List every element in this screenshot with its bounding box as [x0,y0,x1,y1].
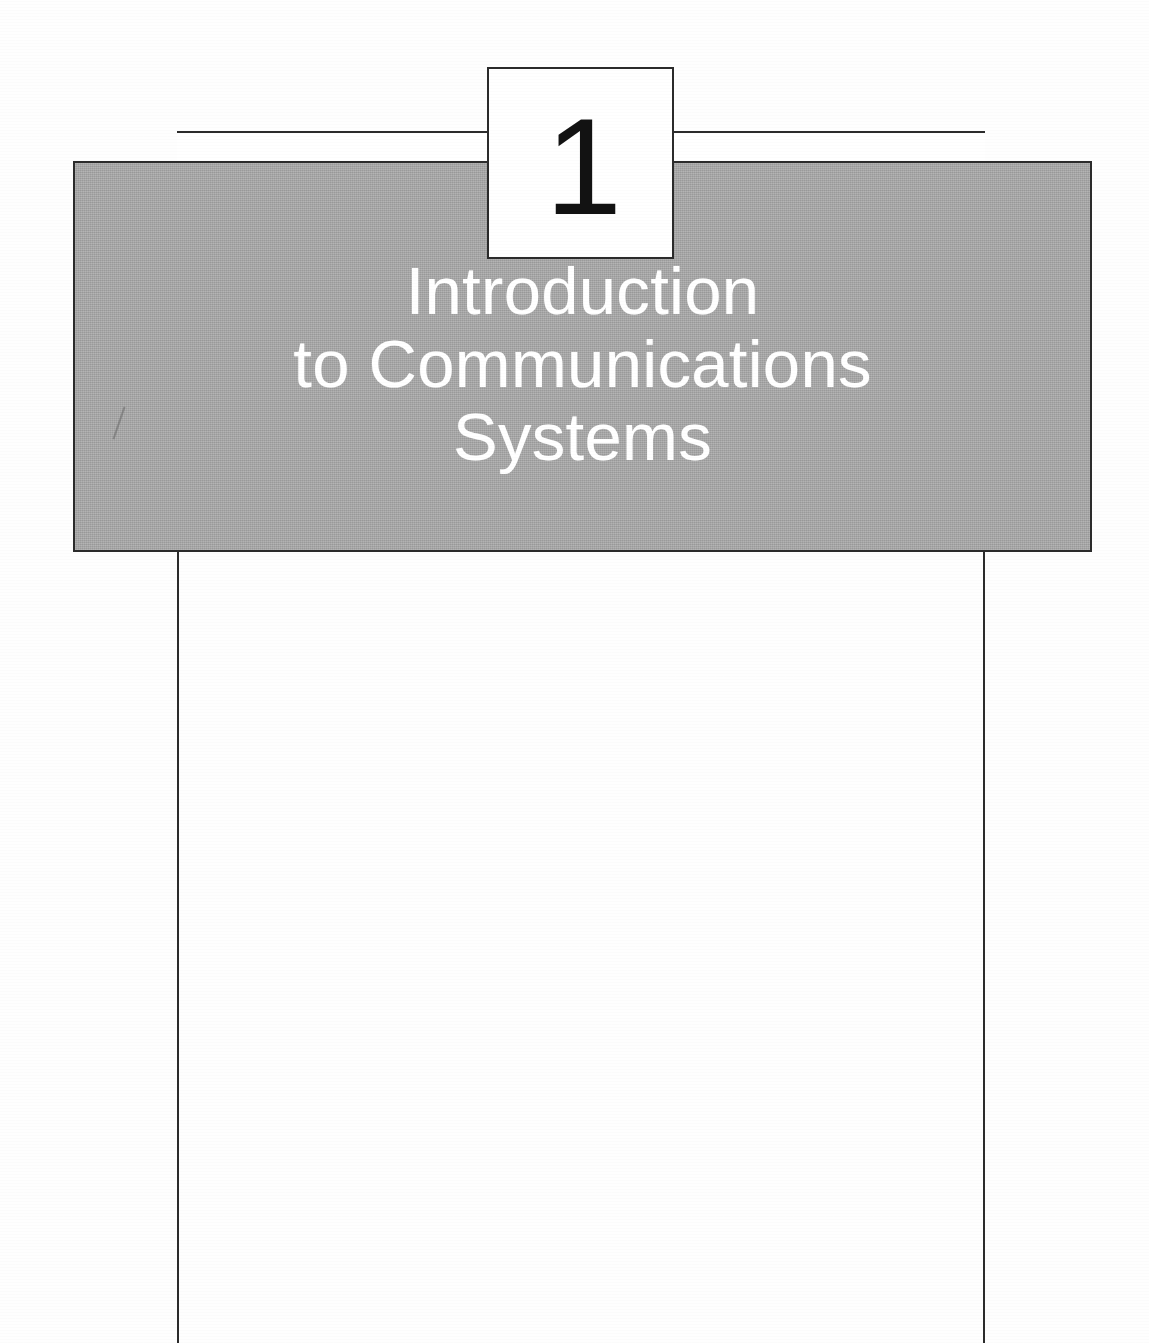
chapter-title-line-2: to Communications [75,327,1090,400]
chapter-title-line-1: Introduction [75,254,1090,327]
chapter-title-line-3: Systems [75,400,1090,473]
chapter-title: Introduction to Communications Systems [75,254,1090,473]
chapter-opening-page: Introduction to Communications Systems 1 [0,0,1149,1343]
chapter-number: 1 [545,97,622,235]
chapter-number-tab: 1 [487,67,674,259]
